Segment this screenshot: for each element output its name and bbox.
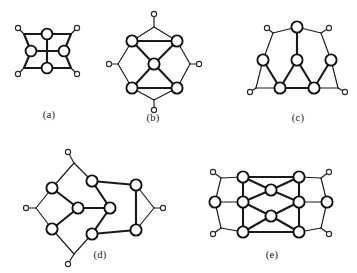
pendant-vertex: [264, 25, 269, 30]
figure-label-c: (c): [292, 112, 305, 124]
graph-vertex: [42, 63, 53, 74]
graph-vertex: [171, 82, 182, 93]
pendant-vertex: [106, 61, 111, 66]
graph-vertex: [209, 196, 220, 207]
graph-edge-thick: [92, 230, 136, 234]
graph-vertex: [237, 226, 248, 237]
graph-vertex: [308, 82, 319, 93]
figure-d: (d): [23, 149, 165, 266]
graph-vertex: [293, 226, 304, 237]
pendant-vertex: [65, 261, 70, 266]
graph-vertex: [59, 46, 70, 57]
pendant-vertex: [23, 205, 28, 210]
pendant-vertex: [15, 71, 20, 76]
graph-vertex: [130, 224, 141, 235]
figure-label-e: (e): [266, 249, 279, 261]
pendant-vertex: [326, 169, 331, 174]
graph-vertex: [257, 54, 268, 65]
graph-vertex: [86, 228, 97, 239]
graph-vertex: [148, 58, 159, 69]
graph-vertex: [130, 179, 141, 190]
graph-vertex: [86, 175, 97, 186]
pendant-vertex: [196, 61, 201, 66]
graph-vertex: [42, 29, 53, 40]
graph-vertex: [126, 35, 137, 46]
pendant-vertex: [342, 89, 347, 94]
pendant-vertex: [326, 231, 331, 236]
graph-vertex: [293, 196, 304, 207]
figure-b: (b): [106, 11, 201, 124]
graph-vertex: [293, 171, 304, 182]
graph-vertex: [237, 171, 248, 182]
graph-vertex: [291, 54, 302, 65]
graph-vertex: [321, 196, 332, 207]
pendant-vertex: [151, 11, 156, 16]
graph-vertex: [325, 54, 336, 65]
pendant-vertex: [326, 25, 331, 30]
graph-figure-canvas: (a)(b)(c)(d)(e): [0, 0, 357, 273]
graph-vertex: [291, 21, 302, 32]
figure-label-a: (a): [43, 109, 56, 121]
pendant-vertex: [247, 89, 252, 94]
graph-vertex: [126, 82, 137, 93]
pendant-vertex: [74, 25, 79, 30]
graph-vertex: [46, 182, 57, 193]
pendant-vertex: [74, 71, 79, 76]
graph-vertex: [274, 82, 285, 93]
graph-vertex: [104, 202, 115, 213]
figure-c: (c): [247, 21, 347, 124]
graph-vertex: [26, 46, 37, 57]
pendant-vertex: [210, 231, 215, 236]
graph-vertex: [72, 202, 83, 213]
figure-a: (a): [15, 25, 79, 121]
graph-vertex: [171, 35, 182, 46]
graph-vertex: [265, 184, 276, 195]
figure-e: (e): [209, 169, 332, 261]
pendant-vertex: [15, 25, 20, 30]
graph-edge-thick: [92, 181, 136, 185]
pendant-vertex: [210, 169, 215, 174]
pendant-vertex: [65, 149, 70, 154]
graph-vertex: [237, 196, 248, 207]
figure-plate: (a)(b)(c)(d)(e): [0, 0, 357, 273]
figure-label-d: (d): [94, 249, 107, 261]
graph-vertex: [46, 223, 57, 234]
graph-vertex: [265, 210, 276, 221]
figure-label-b: (b): [147, 112, 160, 124]
pendant-vertex: [160, 205, 165, 210]
